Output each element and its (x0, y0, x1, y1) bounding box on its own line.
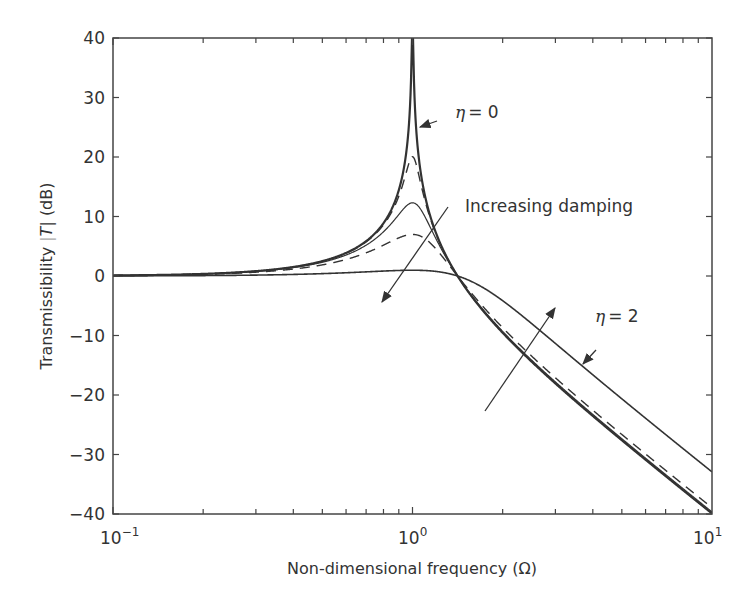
curve-0p25 (113, 203, 712, 512)
svg-text:Increasing damping: Increasing damping (465, 196, 633, 216)
eta-symbol: η (595, 306, 606, 326)
y-tick-label: −20 (69, 385, 105, 405)
x-tick-0.1: 10−1 (100, 525, 139, 548)
eta0-arrow (420, 121, 437, 127)
curves-group (113, 38, 712, 513)
transmissibility-chart: 403020100−10−20−30−40 10−1 100 101 Non-d… (0, 0, 755, 605)
annotation-eta0: η= 0 (420, 102, 499, 127)
y-tick-label: 30 (83, 88, 105, 108)
x-tick-10: 101 (693, 525, 722, 548)
y-tick-label: 10 (83, 207, 105, 227)
y-tick-label: −10 (69, 326, 105, 346)
y-axis-title: Transmissibility |T| (dB) (37, 182, 56, 370)
y-tick-label: 40 (83, 28, 105, 48)
y-tick-label: 0 (94, 266, 105, 286)
x-axis-title: Non-dimensional frequency (Ω) (287, 559, 537, 578)
damping-arrow-down (382, 207, 448, 302)
y-tick-label: −40 (69, 504, 105, 524)
eta-symbol: η (455, 102, 466, 122)
eta2-arrow (583, 350, 596, 364)
y-tick-label: 20 (83, 147, 105, 167)
svg-text:η= 0: η= 0 (455, 102, 499, 122)
x-tick-labels: 10−1 100 101 (100, 525, 722, 548)
y-tick-labels: 403020100−10−20−30−40 (69, 28, 105, 524)
x-tick-1: 100 (398, 525, 427, 548)
annotation-eta2: η= 2 (583, 306, 639, 364)
y-tick-label: −30 (69, 445, 105, 465)
svg-text:η= 2: η= 2 (595, 306, 639, 326)
